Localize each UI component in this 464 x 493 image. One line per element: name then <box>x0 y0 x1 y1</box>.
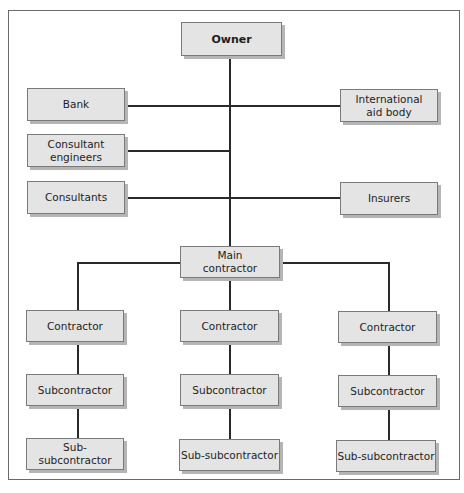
connector-left-drop <box>77 262 79 310</box>
connector-left-sub-subsub <box>77 406 79 438</box>
node-sub-subcontractor-right-label: Sub-subcontractor <box>338 450 435 463</box>
node-consultants-label: Consultants <box>45 191 107 204</box>
node-subcontractor-middle-label: Subcontractor <box>192 384 266 397</box>
node-subcontractor-left: Subcontractor <box>26 374 124 406</box>
connector-right-sub-subsub <box>388 407 390 440</box>
node-contractor-middle: Contractor <box>180 310 279 342</box>
connector-right-contractor-sub <box>388 343 390 375</box>
node-subcontractor-right: Subcontractor <box>338 375 437 407</box>
connector-mid-contractor-sub <box>229 342 231 374</box>
node-subcontractor-middle: Subcontractor <box>180 374 279 406</box>
connector-mid-sub-subsub <box>229 406 231 439</box>
node-bank: Bank <box>27 88 125 121</box>
node-contractor-left-label: Contractor <box>47 320 103 333</box>
node-bank-label: Bank <box>63 98 89 111</box>
node-main-contractor-label: Main contractor <box>203 249 257 275</box>
node-owner: Owner <box>181 22 282 56</box>
node-sub-subcontractor-right: Sub-subcontractor <box>336 440 436 472</box>
connector-main-to-mid-contractor <box>229 278 231 310</box>
node-sub-subcontractor-middle: Sub-subcontractor <box>179 439 280 471</box>
node-international-aid-body-label: International aid body <box>355 93 422 119</box>
node-consultant-engineers-label: Consultant engineers <box>48 138 105 164</box>
node-owner-label: Owner <box>211 33 251 46</box>
connector-consultant-engineers <box>125 150 230 152</box>
node-subcontractor-left-label: Subcontractor <box>38 384 112 397</box>
node-contractor-right-label: Contractor <box>360 321 416 334</box>
node-consultants: Consultants <box>27 181 125 214</box>
node-contractor-left: Contractor <box>26 310 124 342</box>
node-contractor-middle-label: Contractor <box>202 320 258 333</box>
node-consultant-engineers: Consultant engineers <box>27 134 125 167</box>
node-insurers-label: Insurers <box>368 192 410 205</box>
diagram-frame <box>8 10 460 480</box>
connector-bank-aid <box>125 105 340 107</box>
node-subcontractor-right-label: Subcontractor <box>350 385 424 398</box>
connector-left-contractor-sub <box>77 342 79 374</box>
connector-right-drop <box>388 262 390 311</box>
node-international-aid-body: International aid body <box>340 89 438 122</box>
node-sub-subcontractor-left: Sub-subcontractor <box>26 438 124 470</box>
node-contractor-right: Contractor <box>338 311 437 343</box>
node-sub-subcontractor-middle-label: Sub-subcontractor <box>181 449 278 462</box>
connector-consultants-insurers <box>125 197 340 199</box>
node-sub-subcontractor-left-label: Sub-subcontractor <box>27 441 123 467</box>
node-main-contractor: Main contractor <box>180 246 280 278</box>
node-insurers: Insurers <box>340 182 438 215</box>
